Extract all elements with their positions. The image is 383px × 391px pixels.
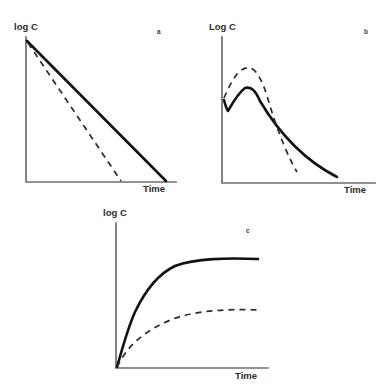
panel-a-dashed-curve (28, 43, 121, 181)
panel-b-solid-curve (224, 88, 337, 177)
panel-c-ylabel: log C (103, 207, 127, 218)
panel-b-dashed-curve (224, 68, 297, 172)
panel-b-xlabel: Time (344, 184, 366, 195)
panel-b: Log C Time b (209, 21, 375, 195)
panel-b-axes (222, 37, 375, 183)
panel-c-xlabel: Time (235, 370, 257, 381)
panel-a-ylabel: log C (14, 21, 38, 32)
panel-b-ylabel: Log C (209, 21, 236, 32)
panel-c-axes (116, 223, 268, 368)
panel-a-solid-curve (27, 41, 166, 181)
panel-a-xlabel: Time (143, 183, 165, 194)
panel-c-letter: c (246, 227, 250, 234)
panel-a-axes (26, 37, 176, 182)
pharmacokinetic-curves-figure: log C Time a Log C Time b log C Time c (0, 0, 383, 391)
panel-c-solid-curve (117, 259, 258, 367)
panel-a: log C Time a (14, 21, 176, 194)
panel-c: log C Time c (103, 207, 268, 381)
panel-b-letter: b (364, 28, 368, 35)
panel-c-dashed-curve (117, 310, 258, 367)
panel-a-letter: a (157, 28, 161, 35)
